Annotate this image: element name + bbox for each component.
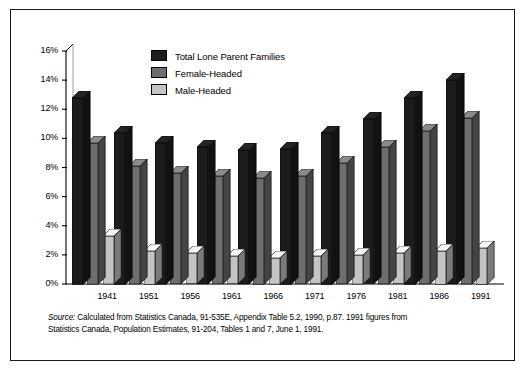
x-axis-tick-label: 1941	[84, 291, 130, 301]
source-note-line2: Statistics Canada, Population Estimates,…	[48, 324, 488, 336]
x-axis-tick-label: 1976	[333, 291, 379, 301]
y-axis-tick-label: 8%	[32, 162, 58, 172]
y-axis-tick-label: 10%	[32, 132, 58, 142]
x-axis-tick-label: 1971	[292, 291, 338, 301]
x-axis-tick-label: 1956	[167, 291, 213, 301]
x-axis-tick-label: 1966	[250, 291, 296, 301]
source-note: Source: Calculated from Statistics Canad…	[48, 312, 488, 335]
source-note-prefix: Source:	[48, 313, 75, 322]
x-axis-tick-label: 1981	[375, 291, 421, 301]
legend-label: Male-Headed	[175, 85, 231, 96]
legend-label: Female-Headed	[175, 68, 242, 79]
x-axis-tick-label: 1991	[458, 291, 504, 301]
y-axis-tick-label: 2%	[32, 249, 58, 259]
bar-1941-series0	[72, 91, 92, 286]
y-axis-tick-label: 6%	[32, 191, 58, 201]
y-axis-tick-label: 16%	[32, 45, 58, 55]
legend-swatch-0	[151, 50, 167, 61]
y-axis-tick-label: 14%	[32, 74, 58, 84]
x-axis-tick-label: 1951	[126, 291, 172, 301]
legend-label: Total Lone Parent Families	[175, 51, 285, 62]
y-axis-tick-label: 0%	[32, 278, 58, 288]
y-axis-tick-label: 4%	[32, 220, 58, 230]
legend-swatch-1	[151, 67, 167, 78]
y-axis-tick-label: 12%	[32, 103, 58, 113]
x-axis-tick-label: 1986	[416, 291, 462, 301]
legend-swatch-2	[151, 84, 167, 95]
x-axis-tick-label: 1961	[209, 291, 255, 301]
chart-frame: 0%2%4%6%8%10%12%14%16%199119861981197619…	[10, 9, 515, 361]
source-note-line1: Calculated from Statistics Canada, 91-53…	[75, 313, 407, 322]
bar-chart-plot: 0%2%4%6%8%10%12%14%16%199119861981197619…	[11, 10, 516, 362]
